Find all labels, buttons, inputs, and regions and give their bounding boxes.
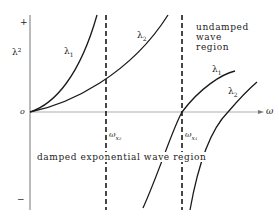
curve-label-lambda1-right: λ1 xyxy=(212,64,222,78)
y-axis-plus-label: + xyxy=(20,17,28,27)
undamped-region-label: undamped wave region xyxy=(196,22,249,52)
curve-label-lambda1-left: λ1 xyxy=(64,46,74,60)
curve-label-lambda2-left: λ2 xyxy=(137,30,147,44)
x-axis-arrow-icon xyxy=(258,110,264,114)
curve-lambda1-left xyxy=(30,15,97,112)
origin-label: o xyxy=(20,107,25,117)
curve-lambda2-left xyxy=(30,15,168,112)
y-axis-label: λ² xyxy=(12,47,21,57)
cutoff-label-omega-x2: ωx₂ xyxy=(109,130,121,143)
damped-region-label: damped exponential wave region xyxy=(36,152,207,162)
curve-label-lambda2-right: λ2 xyxy=(228,86,238,100)
y-axis-label-text: λ² xyxy=(12,47,21,57)
curve-lambda2-right xyxy=(190,82,257,210)
x-axis-label: ω xyxy=(266,106,273,116)
cutoff-label-omega-x1: ωx₁ xyxy=(185,130,197,143)
y-axis-minus-label: − xyxy=(17,194,25,204)
